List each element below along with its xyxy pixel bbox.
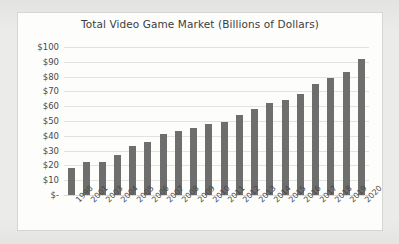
bar bbox=[358, 59, 365, 195]
plot-area bbox=[64, 47, 369, 195]
y-tick-label: $50 bbox=[43, 116, 59, 126]
y-axis: $-$10$20$30$40$50$60$70$80$90$100 bbox=[18, 47, 62, 195]
y-tick-label: $90 bbox=[43, 57, 59, 67]
bar bbox=[251, 109, 258, 195]
y-tick-label: $10 bbox=[43, 175, 59, 185]
bar-series bbox=[64, 47, 369, 195]
screenshot-root: Total Video Game Market (Billions of Dol… bbox=[0, 0, 399, 244]
y-tick-label: $20 bbox=[43, 160, 59, 170]
y-tick-label: $40 bbox=[43, 131, 59, 141]
chart-card: Total Video Game Market (Billions of Dol… bbox=[17, 12, 383, 231]
x-axis: 1998200120032004200520062007200820092010… bbox=[64, 196, 369, 236]
bar bbox=[68, 168, 75, 195]
y-tick-label: $30 bbox=[43, 146, 59, 156]
bar bbox=[297, 94, 304, 195]
y-tick-label: $- bbox=[51, 190, 59, 200]
chart-title: Total Video Game Market (Billions of Dol… bbox=[18, 18, 382, 30]
y-tick-label: $100 bbox=[37, 42, 59, 52]
y-tick-label: $70 bbox=[43, 86, 59, 96]
y-tick-label: $60 bbox=[43, 101, 59, 111]
bar bbox=[343, 72, 350, 195]
bar bbox=[312, 84, 319, 195]
bar bbox=[266, 103, 273, 195]
bar bbox=[282, 100, 289, 195]
bar bbox=[327, 78, 334, 195]
y-tick-label: $80 bbox=[43, 72, 59, 82]
